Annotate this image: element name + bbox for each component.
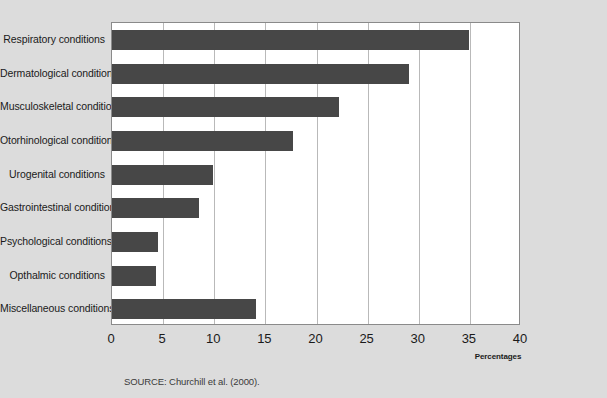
x-axis: 0510152025303540 — [111, 325, 520, 355]
x-tick-label: 10 — [206, 331, 220, 346]
category-label: Psychological conditions — [0, 235, 105, 247]
category-label-column: Respiratory conditionsDermatological con… — [0, 22, 105, 325]
bar — [112, 232, 158, 252]
bar — [112, 30, 469, 50]
bar-chart-figure: Respiratory conditionsDermatological con… — [0, 0, 607, 398]
category-label: Dermatological conditions — [0, 67, 105, 79]
category-label: Miscellaneous conditions — [0, 302, 105, 314]
source-note: SOURCE: Churchill et al. (2000). — [124, 376, 260, 387]
x-tick-label: 20 — [308, 331, 322, 346]
bar — [112, 266, 156, 286]
category-label: Opthalmic conditions — [0, 269, 105, 281]
x-tick-label: 40 — [513, 331, 527, 346]
bar — [112, 299, 256, 319]
x-tick-label: 5 — [159, 331, 166, 346]
bar — [112, 198, 199, 218]
bar — [112, 97, 339, 117]
category-label: Musculoskeletal conditions — [0, 100, 105, 112]
bar-series — [112, 23, 519, 324]
category-label: Urogenital conditions — [0, 168, 105, 180]
plot-area — [111, 22, 520, 325]
x-tick-label: 0 — [107, 331, 114, 346]
bar — [112, 64, 409, 84]
x-tick-label: 30 — [411, 331, 425, 346]
category-label: Respiratory conditions — [0, 33, 105, 45]
bar — [112, 165, 213, 185]
x-tick-label: 35 — [462, 331, 476, 346]
x-tick-label: 25 — [359, 331, 373, 346]
bar — [112, 131, 293, 151]
category-label: Gastrointestinal conditions — [0, 201, 105, 213]
x-axis-title: Percentages — [470, 352, 526, 361]
category-label: Otorhinological conditions — [0, 134, 105, 146]
x-tick-label: 15 — [257, 331, 271, 346]
